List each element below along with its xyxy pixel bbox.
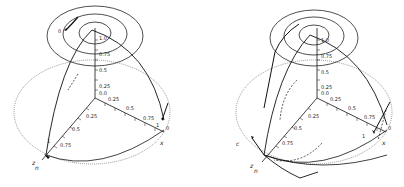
y-axis-label-n: n (254, 167, 258, 174)
origin-label: 0 (388, 125, 391, 131)
y-axis-label-n: n (35, 164, 39, 171)
tick-x-075: 0.75 (143, 115, 154, 121)
diagram-panel-right: 1.0 0.75 0.5 0.25 0.0 0.25 0.5 0.75 1 0 … (202, 0, 404, 187)
dome-boundary (14, 60, 170, 164)
side-label: c (236, 140, 240, 147)
tick-x-025: 0.25 (330, 96, 341, 102)
tick-vertical-0: 0.0 (99, 90, 107, 96)
tick-vertical-075: 0.75 (321, 53, 332, 59)
sphere-trajectory-diagram-right: 1.0 0.75 0.5 0.25 0.0 0.25 0.5 0.75 1 0 … (202, 0, 404, 187)
x-axis-label: x (159, 139, 164, 146)
trajectory-dashed (68, 74, 78, 90)
tick-x-1: 1 (156, 122, 159, 128)
tick-y-075: 0.75 (282, 140, 293, 146)
trajectory-right (162, 103, 168, 120)
tick-vertical-075: 0.75 (99, 51, 110, 57)
x-axis-label: x (381, 139, 386, 146)
tick-vertical-1: 1.0 (99, 35, 107, 41)
tick-vertical-1: 1.0 (321, 37, 329, 43)
sphere-trajectory-diagram-left: 1.0 0.75 0.5 0.25 0.0 0.25 0.5 0.75 1 0 … (0, 0, 202, 187)
tick-y-075: 0.75 (60, 142, 71, 148)
tick-y-05: 0.5 (294, 125, 302, 131)
tick-vertical-0: 0.0 (321, 90, 329, 96)
tick-x-1: 1 (362, 133, 365, 139)
tick-y-05: 0.5 (72, 126, 80, 132)
tick-y-025: 0.25 (308, 113, 319, 119)
trajectory-left (264, 24, 299, 108)
tick-x-075: 0.75 (364, 114, 375, 120)
tick-vertical-05: 0.5 (321, 69, 329, 75)
tick-x-025: 0.25 (108, 96, 119, 102)
tick-vertical-05: 0.5 (99, 67, 107, 73)
tick-y-1: 1 (47, 138, 50, 144)
trajectory-dashed-center (280, 80, 297, 120)
trajectory-bottom (264, 155, 318, 178)
tick-y-025: 0.25 (86, 113, 97, 119)
tick-x-05: 0.5 (348, 105, 356, 111)
diagram-panel-left: 1.0 0.75 0.5 0.25 0.0 0.25 0.5 0.75 1 0 … (0, 0, 202, 187)
tick-x-05: 0.5 (126, 105, 134, 111)
marker-label: 0 (58, 28, 61, 34)
origin-label: 0 (166, 125, 169, 131)
tick-vertical-025: 0.25 (99, 83, 110, 89)
